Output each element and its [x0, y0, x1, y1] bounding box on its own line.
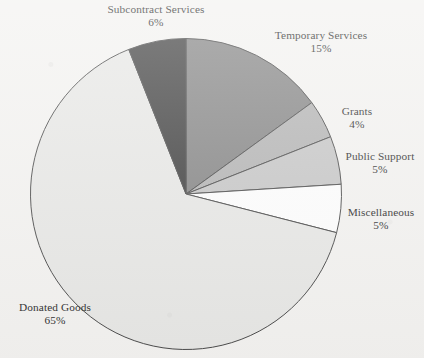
pie-label-subcontract-services: Subcontract Services 6% — [94, 3, 218, 28]
pie-label-name: Donated Goods — [2, 301, 108, 314]
pie-label-percent: 15% — [256, 42, 386, 55]
pie-label-public-support: Public Support 5% — [336, 150, 424, 175]
pie-label-name: Public Support — [336, 150, 424, 163]
pie-label-name: Subcontract Services — [94, 3, 218, 16]
pie-label-percent: 65% — [2, 314, 108, 327]
pie-label-miscellaneous: Miscellaneous 5% — [338, 206, 424, 231]
pie-label-name: Temporary Services — [256, 29, 386, 42]
pie-label-percent: 6% — [94, 16, 218, 29]
pie-label-percent: 5% — [336, 163, 424, 176]
pie-chart: Subcontract Services 6% Temporary Servic… — [0, 0, 424, 358]
pie-label-grants: Grants 4% — [322, 105, 392, 130]
pie-label-percent: 5% — [338, 219, 424, 232]
pie-label-temporary-services: Temporary Services 15% — [256, 29, 386, 54]
pie-label-name: Grants — [322, 105, 392, 118]
pie-label-percent: 4% — [322, 118, 392, 131]
pie-label-donated-goods: Donated Goods 65% — [2, 301, 108, 326]
pie-label-name: Miscellaneous — [338, 206, 424, 219]
